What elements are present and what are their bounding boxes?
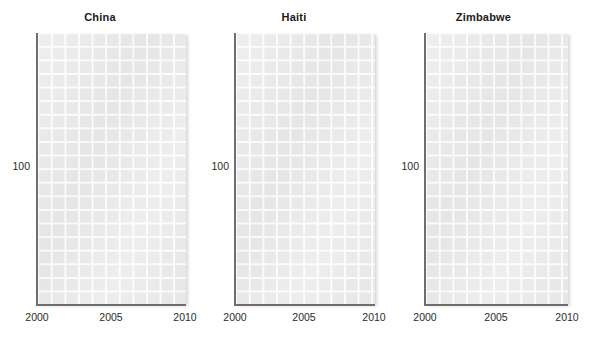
x-tick-label-2000-zimbabwe: 2000 — [406, 312, 444, 323]
x-tick-label-2005-haiti: 2005 — [285, 312, 323, 323]
y-axis-spine-haiti — [234, 33, 236, 306]
panel-background-zimbabwe — [426, 33, 568, 304]
panel-background-haiti — [236, 33, 375, 304]
y-axis-spine-zimbabwe — [424, 33, 426, 306]
gridlines-zimbabwe — [426, 33, 568, 304]
x-tick-label-2000-haiti: 2000 — [216, 312, 254, 323]
x-axis-spine-haiti — [234, 304, 375, 306]
y-axis-spine-china — [36, 33, 38, 306]
x-axis-spine-china — [36, 304, 186, 306]
chart-figure: China 100 2000 2005 2010 Haiti 100 2000 … — [0, 0, 598, 346]
x-tick-label-2000-china: 2000 — [18, 312, 56, 323]
panel-background-china — [38, 33, 186, 304]
gridlines-china — [38, 33, 186, 304]
facet-title-haiti: Haiti — [199, 11, 389, 23]
facet-panel-zimbabwe: Zimbabwe 100 2000 2005 2010 — [389, 0, 598, 346]
x-tick-label-2010-haiti: 2010 — [355, 312, 393, 323]
plot-area-china — [38, 33, 186, 304]
gridlines-haiti — [236, 33, 375, 304]
facet-title-zimbabwe: Zimbabwe — [379, 11, 588, 23]
plot-area-haiti — [236, 33, 375, 304]
facet-panel-haiti: Haiti 100 2000 2005 2010 — [199, 0, 389, 346]
x-tick-label-2005-china: 2005 — [92, 312, 130, 323]
y-tick-label-100-china: 100 — [0, 161, 30, 172]
x-axis-spine-zimbabwe — [424, 304, 568, 306]
facet-panel-china: China 100 2000 2005 2010 — [0, 0, 200, 346]
facet-title-china: China — [0, 11, 200, 23]
x-tick-label-2010-zimbabwe: 2010 — [548, 312, 586, 323]
plot-area-zimbabwe — [426, 33, 568, 304]
y-tick-label-100-zimbabwe: 100 — [389, 161, 419, 172]
y-tick-label-100-haiti: 100 — [199, 161, 229, 172]
x-tick-label-2005-zimbabwe: 2005 — [477, 312, 515, 323]
